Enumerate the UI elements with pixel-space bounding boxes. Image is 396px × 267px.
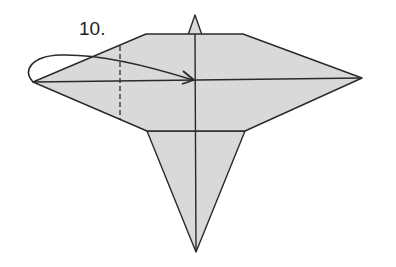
step-number-label: 10. <box>79 19 105 38</box>
origami-diagram: 10. <box>0 0 396 267</box>
top-tip <box>188 15 202 35</box>
upper-body <box>33 34 362 131</box>
center-vertical-crease <box>195 34 196 252</box>
